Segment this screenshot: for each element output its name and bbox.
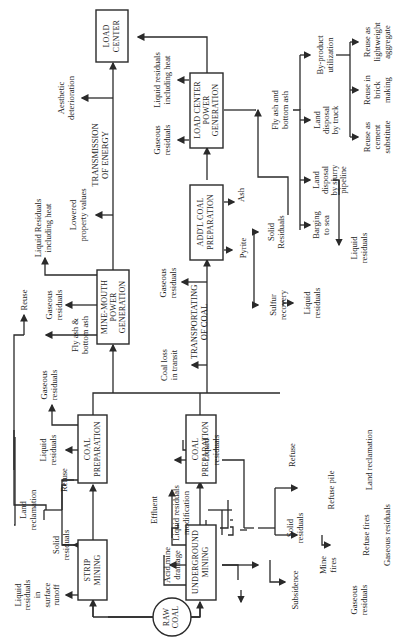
svg-text:residuals: residuals <box>22 579 32 610</box>
svg-text:by truck: by truck <box>330 105 340 134</box>
svg-text:Solid: Solid <box>266 222 276 241</box>
svg-text:modification: modification <box>181 490 191 535</box>
svg-text:PREPARATION: PREPARATION <box>206 194 215 250</box>
svg-text:Fly ash and: Fly ash and <box>270 89 280 129</box>
label-brick: Reuse in brick making <box>362 74 392 105</box>
svg-text:residuals: residuals <box>211 434 221 465</box>
label-truck: Land disposal by truck <box>312 105 340 134</box>
label-liquid-residuals-prep2: Liquid residuals <box>201 434 221 465</box>
label-gaseous-minefires: Gaseous residuals <box>349 584 369 615</box>
svg-text:reclamation: reclamation <box>28 489 38 530</box>
label-liquid-sulfur: Liquid residuals <box>302 287 322 318</box>
svg-text:LOAD: LOAD <box>102 24 111 47</box>
svg-text:Reuse as: Reuse as <box>362 26 372 57</box>
svg-text:POWER: POWER <box>202 95 211 124</box>
svg-text:bottom ash: bottom ash <box>80 315 90 354</box>
label-solid-residuals-strip: Solid residuals <box>51 529 71 560</box>
svg-text:recovery: recovery <box>278 289 288 320</box>
svg-text:TRANSPORTATING: TRANSPORTATING <box>189 285 199 360</box>
label-sulfur-recovery: Sulfur recovery <box>268 289 288 320</box>
label-refuse-fires: Refuse fires <box>361 514 371 556</box>
addl-coal-prep-node: ADD'L COAL PREPARATION <box>190 185 223 260</box>
label-liquid-surface-runoff: Liquid residuals in surface runoff <box>13 579 61 610</box>
svg-text:MINING: MINING <box>93 554 102 585</box>
svg-text:including heat: including heat <box>162 55 172 105</box>
svg-text:residuals: residuals <box>295 512 305 543</box>
svg-text:Barging: Barging <box>311 211 321 239</box>
svg-text:bottom ash: bottom ash <box>280 90 290 129</box>
svg-text:deterioration: deterioration <box>66 75 76 120</box>
label-solid-residuals-ug: Solid residuals <box>285 512 305 543</box>
svg-text:residuals: residuals <box>168 267 178 298</box>
svg-text:Gaseous: Gaseous <box>349 585 359 615</box>
label-transmission: TRANSMISSION OF ENERGY <box>90 122 110 186</box>
svg-text:Mine: Mine <box>318 556 328 574</box>
label-subsidence: Subsidence <box>290 570 300 609</box>
raw-coal-node: RAW COAL <box>153 598 191 636</box>
label-liquid-slurry: Liquid residuals <box>349 232 369 263</box>
svg-text:LOAD CENTER: LOAD CENTER <box>193 81 202 139</box>
label-byproduct: By-product utilization <box>315 35 335 75</box>
label-barging: Barging to sea <box>311 211 331 239</box>
svg-text:aggregate: aggregate <box>382 25 392 59</box>
svg-text:Land: Land <box>18 500 28 518</box>
label-solid-residuals-addl: Solid Residuals <box>266 215 286 249</box>
mine-mouth-power-node: MINE-MOUTH POWER GENERATION <box>97 270 129 344</box>
svg-text:Gaseous: Gaseous <box>44 290 54 320</box>
svg-text:in transit: in transit <box>169 349 179 380</box>
svg-text:STRIP: STRIP <box>83 558 92 581</box>
svg-text:Liquid: Liquid <box>349 236 359 260</box>
label-pyrite: Pyrite <box>238 238 248 259</box>
svg-text:Sulfur: Sulfur <box>268 294 278 316</box>
svg-text:Liquid: Liquid <box>201 438 211 462</box>
svg-text:By-product: By-product <box>315 35 325 75</box>
svg-text:substitute: substitute <box>382 120 392 153</box>
svg-text:MINING: MINING <box>201 546 210 577</box>
label-acid-drainage: Acid mine drainage <box>162 547 182 583</box>
label-lowered-property: Lowered property values <box>68 188 88 242</box>
label-gaseous-transport: Gaseous residuals <box>158 267 178 298</box>
load-center-node: LOAD CENTER <box>96 10 128 62</box>
label-slurry: Land disposal by slurry pipeline <box>311 164 348 195</box>
svg-text:Liquid residuals: Liquid residuals <box>171 485 181 541</box>
svg-text:Liquid Residuals: Liquid Residuals <box>33 198 43 257</box>
svg-text:residuals: residuals <box>359 584 369 615</box>
svg-text:residuals: residuals <box>359 232 369 263</box>
svg-text:Coal loss: Coal loss <box>159 348 169 380</box>
svg-text:residuals: residuals <box>54 289 64 320</box>
svg-text:utilization: utilization <box>325 37 335 73</box>
svg-text:RAW: RAW <box>162 607 171 626</box>
svg-text:Reuse in: Reuse in <box>362 74 372 105</box>
label-liquid-mod: Liquid residuals modification <box>171 485 191 541</box>
svg-text:brick: brick <box>372 80 382 98</box>
svg-text:drainage: drainage <box>172 550 182 580</box>
coal-prep-strip-node: COAL PREPARATION <box>78 415 107 483</box>
svg-text:Gaseous: Gaseous <box>152 125 162 155</box>
svg-text:Reuse as: Reuse as <box>362 121 372 152</box>
svg-text:TRANSMISSION: TRANSMISSION <box>90 122 100 186</box>
label-fly-ash-lc: Fly ash and bottom ash <box>270 89 290 129</box>
svg-text:Liquid: Liquid <box>38 438 48 462</box>
svg-text:OF COAL: OF COAL <box>199 304 209 341</box>
svg-text:fires: fires <box>328 557 338 573</box>
svg-text:GENERATION: GENERATION <box>118 281 127 334</box>
svg-text:MINE-MOUTH: MINE-MOUTH <box>100 280 109 334</box>
label-coal-loss: Coal loss in transit <box>159 348 179 380</box>
svg-text:Solid: Solid <box>285 518 295 537</box>
coal-flow-diagram: RAW COAL STRIP MINING COAL PREPARATION U… <box>0 0 403 643</box>
svg-text:Gaseous: Gaseous <box>158 268 168 298</box>
label-land-reclamation-ug: Land reclamation <box>364 429 374 490</box>
label-liquid-heat-lc: Liquid residuals including heat <box>152 52 172 108</box>
svg-text:ADD'L COAL: ADD'L COAL <box>196 197 205 246</box>
label-mine-fires: Mine fires <box>318 556 338 574</box>
label-aesthetic: Aesthetic deterioration <box>56 75 76 120</box>
label-ash: Ash <box>236 187 246 202</box>
svg-text:Residuals: Residuals <box>276 215 286 249</box>
label-refuse-pile: Refuse pile <box>326 470 336 509</box>
svg-text:PREPARATION: PREPARATION <box>93 421 102 477</box>
svg-text:residuals: residuals <box>48 434 58 465</box>
label-liquid-heat-mm: Liquid Residuals including heat <box>33 198 53 257</box>
svg-text:Liquid residuals: Liquid residuals <box>152 52 162 108</box>
svg-text:Gaseous: Gaseous <box>39 370 49 400</box>
svg-text:Fly ash &: Fly ash & <box>70 318 80 352</box>
